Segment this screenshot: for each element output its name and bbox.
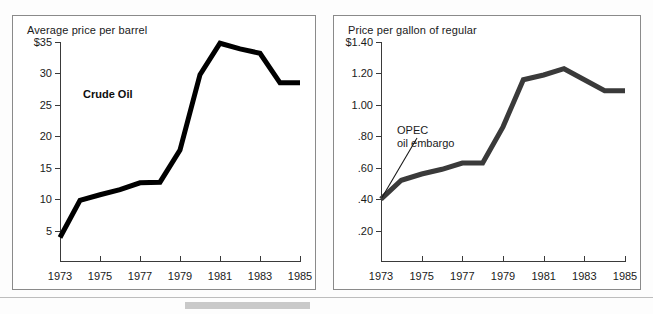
- scan-artifact-bar: [185, 302, 310, 309]
- crude-oil-y-tick-label: 15: [40, 162, 52, 174]
- crude-oil-x-tick-label: 1973: [48, 270, 72, 282]
- figure-canvas: Average price per barrel $3530252015105 …: [0, 0, 653, 314]
- gasoline-x-tick-label: 1979: [491, 270, 515, 282]
- crude-oil-y-tick-label: 20: [40, 130, 52, 142]
- gasoline-x-tick-label: 1985: [613, 270, 637, 282]
- crude-oil-x-tick-label: 1975: [88, 270, 112, 282]
- crude-oil-x-tick-label: 1981: [208, 270, 232, 282]
- opec-oil-embargo-annotation: OPEC oil embargo: [397, 124, 454, 149]
- scan-artifact-rule: [0, 297, 653, 298]
- gasoline-y-tick-label: .80: [358, 130, 373, 142]
- gasoline-x-tick-label: 1977: [450, 270, 474, 282]
- gasoline-y-tick-label: 1.20: [352, 67, 373, 79]
- gasoline-y-tick-label: 1.00: [352, 99, 373, 111]
- gasoline-plot-area: $1.401.201.00.80.60.40.20 19731975197719…: [381, 42, 625, 262]
- crude-oil-x-tick-label: 1977: [128, 270, 152, 282]
- crude-oil-y-tick-label: $35: [34, 36, 52, 48]
- gasoline-x-tick-label: 1983: [572, 270, 596, 282]
- gasoline-y-tick-label: .60: [358, 162, 373, 174]
- gasoline-y-tick-label: $1.40: [345, 36, 373, 48]
- gasoline-y-tick-label: .20: [358, 225, 373, 237]
- crude-oil-x-tick-label: 1985: [288, 270, 312, 282]
- crude-oil-series-label: Crude Oil: [83, 88, 133, 100]
- gasoline-chart-panel: Price per gallon of regular $1.401.201.0…: [333, 15, 641, 290]
- gasoline-line-series: [381, 42, 625, 262]
- opec-annotation-line-1: OPEC: [397, 124, 454, 137]
- crude-oil-axis-caption: Average price per barrel: [27, 24, 147, 36]
- crude-oil-y-tick-label: 30: [40, 67, 52, 79]
- crude-oil-y-tick-label: 25: [40, 99, 52, 111]
- crude-oil-x-tick-label: 1983: [248, 270, 272, 282]
- gasoline-axis-caption: Price per gallon of regular: [348, 24, 477, 36]
- gasoline-x-tick-label: 1975: [409, 270, 433, 282]
- crude-oil-x-tick: [300, 256, 301, 262]
- gasoline-x-tick-label: 1981: [531, 270, 555, 282]
- gasoline-y-tick-label: .40: [358, 193, 373, 205]
- crude-oil-y-tick-label: 10: [40, 193, 52, 205]
- crude-oil-line-series: [60, 42, 300, 262]
- gasoline-x-tick: [625, 256, 626, 262]
- gasoline-x-tick-label: 1973: [369, 270, 393, 282]
- opec-annotation-line-2: oil embargo: [397, 137, 454, 150]
- crude-oil-plot-area: $3530252015105 1973197519771979198119831…: [60, 42, 300, 262]
- crude-oil-chart-panel: Average price per barrel $3530252015105 …: [12, 15, 316, 290]
- crude-oil-x-tick-label: 1979: [168, 270, 192, 282]
- crude-oil-y-tick-label: 5: [46, 225, 52, 237]
